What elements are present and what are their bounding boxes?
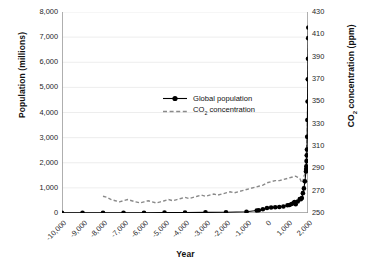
y-axis-left-tick-label: 1,000 — [4, 183, 58, 192]
legend-item-global-population: Global population — [162, 92, 255, 105]
y-axis-left-tick-label: 2,000 — [4, 158, 58, 167]
legend-label-global-population: Global population — [193, 93, 252, 104]
y-axis-right-tick-label: 430 — [312, 7, 352, 16]
y-axis-right-tick-label: 350 — [312, 96, 352, 105]
y-axis-right-tick-label: 250 — [312, 208, 352, 217]
legend-label-co2-concentration: CO2 concentration — [193, 104, 255, 119]
y-axis-right-tick-label: 270 — [312, 186, 352, 195]
chart-legend: Global population CO2 concentration — [162, 92, 255, 118]
legend-label-co2-post: concentration — [207, 105, 255, 114]
y-axis-right-tick-label: 310 — [312, 141, 352, 150]
y-axis-left-tick-label: 4,000 — [4, 108, 58, 117]
y-axis-left-tick-label: 0 — [4, 208, 58, 217]
legend-swatch-solid-line-dot — [162, 93, 188, 104]
y-axis-left-tick-label: 6,000 — [4, 57, 58, 66]
legend-swatch-dashed-line — [162, 106, 188, 117]
y-axis-right-title-sub: 2 — [352, 111, 358, 114]
y-axis-left-title: Population (millions) — [17, 5, 27, 145]
y-axis-left-tick-label: 5,000 — [4, 82, 58, 91]
y-axis-left-tick-label: 7,000 — [4, 32, 58, 41]
y-axis-left-tick-label: 3,000 — [4, 133, 58, 142]
y-axis-right-tick-label: 390 — [312, 52, 352, 61]
y-axis-right-tick-label: 410 — [312, 29, 352, 38]
y-axis-right-tick-label: 330 — [312, 119, 352, 128]
chart-container: Population (millions) CO2 concentration … — [0, 0, 371, 267]
legend-label-co2-pre: CO — [193, 105, 204, 114]
legend-item-co2-concentration: CO2 concentration — [162, 105, 255, 118]
y-axis-left-tick-label: 8,000 — [4, 7, 58, 16]
y-axis-right-tick-label: 370 — [312, 74, 352, 83]
y-axis-right-tick-label: 290 — [312, 163, 352, 172]
